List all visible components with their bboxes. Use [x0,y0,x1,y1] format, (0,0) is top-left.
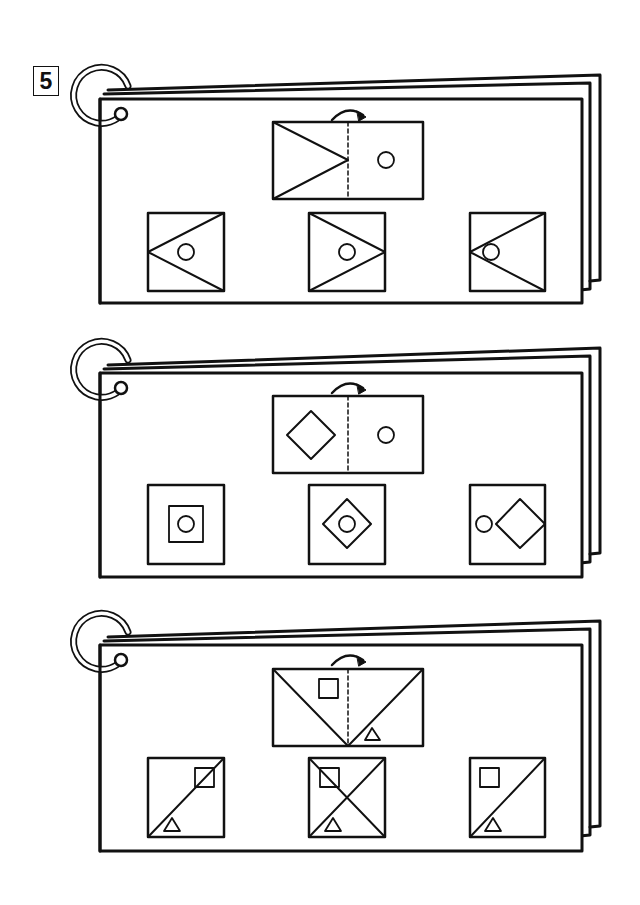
card-3 [74,613,600,851]
folding-puzzle-diagram [0,0,640,905]
front-page [100,373,582,577]
card-1 [74,67,600,303]
card-2 [74,341,600,577]
